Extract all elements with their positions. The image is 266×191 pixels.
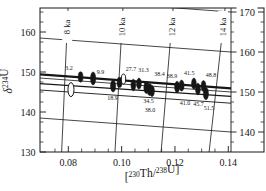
- data-point: [150, 86, 155, 97]
- data-point-label: 45.7: [193, 101, 204, 107]
- data-point: [175, 81, 180, 93]
- x-tick-label: 0.08: [60, 157, 78, 168]
- age-isochron-label: 10 ka: [117, 17, 127, 36]
- data-point-label: 51.5: [204, 105, 215, 111]
- data-point-open: [121, 74, 125, 84]
- data-point: [78, 72, 83, 82]
- isochron-figure: 1301401501600.080.100.120.14140150160170…: [0, 0, 266, 191]
- y-right-tick-label: 170: [239, 7, 255, 18]
- age-isochron-label-group: 14 ka: [218, 11, 228, 43]
- y-left-tick-label: 150: [21, 67, 36, 78]
- y-right-tick-label: 140: [239, 127, 255, 138]
- data-point: [203, 87, 208, 99]
- age-isochron-label-group: 8 ka: [62, 11, 72, 43]
- x-tick-label: 0.14: [220, 157, 238, 168]
- data-point: [195, 83, 200, 95]
- data-point: [179, 80, 184, 91]
- data-point-label: 3.2: [65, 65, 73, 71]
- age-isochron-label-group: 10 ka: [117, 11, 127, 43]
- y-left-tick-label: 130: [21, 147, 36, 158]
- data-point-label: 38.9: [167, 73, 178, 79]
- x-tick-label: 0.10: [113, 157, 131, 168]
- data-point-label: 38.4: [154, 71, 165, 77]
- data-point: [131, 79, 136, 91]
- y-left-tick-label: 140: [21, 107, 36, 118]
- data-point: [91, 72, 96, 85]
- data-point-label: 27.7: [126, 66, 137, 72]
- data-point-label: 48.8: [206, 72, 217, 78]
- age-isochron-label: 12 ka: [167, 17, 177, 36]
- data-point: [111, 80, 116, 92]
- data-point-label: 41.5: [184, 70, 195, 76]
- data-point-label: 31.3: [138, 67, 149, 73]
- data-point-label: 9.9: [97, 69, 105, 75]
- data-point: [137, 78, 142, 89]
- y-right-tick-label: 150: [239, 87, 255, 98]
- age-isochron-label-group: 12 ka: [167, 11, 177, 43]
- isochron-plot-canvas: 1301401501600.080.100.120.14140150160170…: [0, 0, 266, 191]
- age-isochron-label: 14 ka: [218, 17, 228, 36]
- y-right-tick-label: 160: [239, 47, 255, 58]
- age-isochron-label: 8 ka: [62, 20, 72, 35]
- data-point-label: 38.0: [145, 107, 156, 113]
- data-point-open: [68, 83, 74, 97]
- y-left-tick-label: 160: [21, 27, 36, 38]
- data-point-label: 34.5: [143, 98, 154, 104]
- data-point-label: 41.0: [180, 100, 191, 106]
- data-point-label: 18.9: [107, 95, 118, 101]
